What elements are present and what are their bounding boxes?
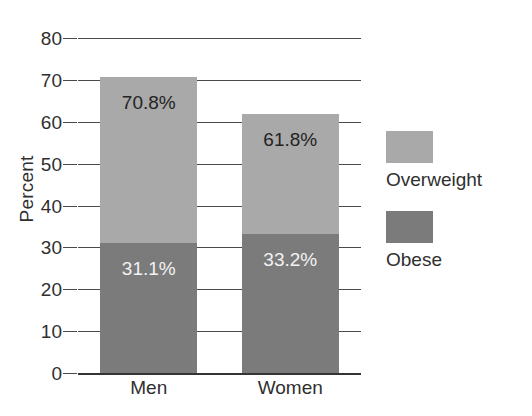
bar-group-women[interactable]: 61.8%33.2% [242, 38, 339, 373]
y-tick-mark-70 [63, 80, 77, 81]
bar-group-men[interactable]: 70.8%31.1% [100, 38, 197, 373]
y-axis-tick-labels: 80706050403020100 [0, 38, 62, 373]
legend-label-overweight: Overweight [386, 170, 526, 189]
x-axis-tick-labels: MenWomen [78, 378, 361, 406]
bar-series: 70.8%31.1%61.8%33.2% [78, 38, 361, 373]
bar-label-overweight-men: 70.8% [100, 93, 197, 112]
y-tick-mark-0 [63, 373, 77, 374]
x-tick-label-women: Women [242, 378, 339, 397]
x-tick-label-men: Men [100, 378, 197, 397]
y-tick-label-50: 50 [0, 154, 62, 173]
y-tick-mark-20 [63, 289, 77, 290]
y-tick-mark-40 [63, 206, 77, 207]
y-tick-label-10: 10 [0, 322, 62, 341]
legend-label-obese: Obese [386, 250, 526, 269]
y-tick-label-20: 20 [0, 280, 62, 299]
y-tick-mark-60 [63, 122, 77, 123]
y-tick-label-40: 40 [0, 196, 62, 215]
plot-area: 70.8%31.1%61.8%33.2% [78, 38, 361, 373]
bar-label-obese-women: 33.2% [242, 250, 339, 269]
legend-item-obese[interactable]: Obese [386, 211, 526, 269]
y-tick-label-30: 30 [0, 238, 62, 257]
y-tick-label-60: 60 [0, 112, 62, 131]
y-tick-mark-50 [63, 164, 77, 165]
legend-swatch-obese [386, 211, 433, 243]
y-tick-label-80: 80 [0, 29, 62, 48]
chart-legend: OverweightObese [386, 131, 526, 291]
y-tick-label-0: 0 [0, 364, 62, 383]
y-tick-mark-30 [63, 247, 77, 248]
legend-swatch-overweight [386, 131, 433, 163]
y-tick-label-70: 70 [0, 70, 62, 89]
legend-item-overweight[interactable]: Overweight [386, 131, 526, 189]
bar-label-overweight-women: 61.8% [242, 130, 339, 149]
y-tick-mark-80 [63, 38, 77, 39]
gridline-0 [78, 373, 361, 375]
bar-label-obese-men: 31.1% [100, 259, 197, 278]
stacked-bar-chart: Percent 80706050403020100 70.8%31.1%61.8… [0, 0, 532, 416]
y-tick-mark-10 [63, 331, 77, 332]
